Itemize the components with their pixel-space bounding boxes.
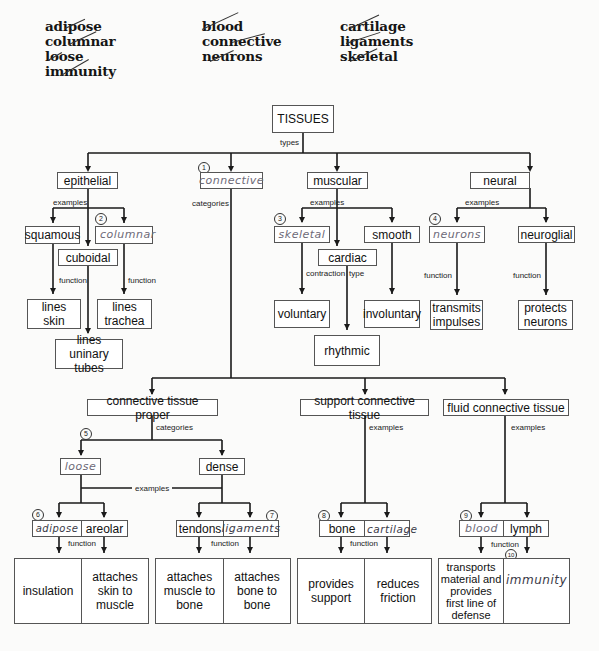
node-text: lines (112, 300, 137, 314)
edge-label-examples: examples (310, 198, 344, 207)
node-text: skin to (98, 584, 133, 598)
node-rhythmic: rhythmic (314, 335, 380, 366)
node-text: muscle (96, 598, 134, 612)
answer-field-adipose[interactable]: adipose (32, 520, 82, 537)
node-text: transmits (432, 301, 481, 315)
edge-label-function: function (59, 276, 87, 285)
answer-field-skeletal[interactable]: skeletal (274, 226, 330, 243)
node-tendons: tendons (176, 520, 224, 537)
node-text: transports (447, 561, 496, 573)
node-text: bone (244, 598, 271, 612)
edge-label-examples: examples (511, 423, 545, 432)
node-muscular: muscular (307, 172, 368, 189)
answer-field-cartilage[interactable]: cartilage (364, 520, 410, 537)
node-text: neurons (524, 315, 567, 329)
node-text: friction (380, 591, 415, 605)
answer-field-loose[interactable]: loose (60, 458, 101, 475)
node-lines-trachea: lines trachea (97, 299, 152, 329)
node-epithelial: epithelial (57, 172, 118, 189)
node-text: protects (524, 301, 567, 315)
edge-label-function: function (513, 271, 541, 280)
edge-label-function: function (68, 539, 96, 548)
node-reduces-friction: reduces friction (364, 558, 432, 624)
edge-label-examples: examples (53, 198, 87, 207)
node-voluntary: voluntary (274, 300, 330, 328)
node-attaches-bone-to-bone: attaches bone to bone (223, 558, 291, 624)
node-provides-support: provides support (297, 558, 365, 624)
edge-label-function: function (491, 540, 519, 549)
node-dense: dense (199, 458, 245, 475)
node-text: provides (308, 577, 353, 591)
node-connective-tissue-proper: connective tissue proper (87, 399, 218, 416)
node-text: skin (43, 314, 64, 328)
edge-label-types: types (280, 138, 299, 147)
node-text: impulses (433, 315, 480, 329)
answer-field-columnar[interactable]: columnar (95, 226, 153, 244)
node-neural: neural (470, 172, 530, 189)
node-text: attaches (167, 570, 212, 584)
edge-label-function: function (211, 539, 239, 548)
node-protects-neurons: protects neurons (518, 300, 573, 330)
node-text: reduces (377, 577, 420, 591)
answer-number-5: 5 (80, 428, 92, 440)
node-text: attaches (234, 570, 279, 584)
node-squamous: squamous (25, 226, 80, 244)
node-text: material and (441, 573, 502, 585)
node-transmits-impulses: transmits impulses (430, 300, 483, 330)
node-lines-uninary-tubes: lines uninary tubes (55, 339, 123, 369)
edge-label-examples: examples (465, 198, 499, 207)
node-cuboidal: cuboidal (58, 249, 118, 266)
node-fluid-connective-tissue: fluid connective tissue (443, 399, 569, 416)
node-lymph: lymph (503, 520, 549, 537)
node-areolar: areolar (81, 520, 128, 537)
edge-label-type: type (349, 269, 364, 278)
answer-field-immunity[interactable]: immunity (503, 558, 570, 624)
answer-number-2: 2 (95, 213, 107, 225)
handwritten-answer: immunity (506, 573, 567, 587)
node-text: lines (42, 300, 67, 314)
node-attaches-skin-to-muscle: attaches skin to muscle (81, 558, 149, 624)
node-text: lines (77, 333, 102, 347)
answer-field-blood[interactable]: blood (459, 520, 504, 537)
node-text: muscle to (164, 584, 215, 598)
node-text: trachea (104, 314, 144, 328)
answer-field-neurons[interactable]: neurons (429, 226, 485, 243)
node-text: uninary tubes (56, 347, 122, 375)
edge-label-examples: examples (134, 484, 170, 493)
node-text: bone (176, 598, 203, 612)
node-smooth: smooth (364, 226, 420, 243)
node-transports-material: transports material and provides first l… (438, 558, 504, 624)
answer-number-4: 4 (429, 213, 441, 225)
edge-label-categories: categories (156, 423, 193, 432)
answer-field-ligaments[interactable]: ligaments (223, 520, 279, 537)
edge-label-examples: examples (369, 423, 403, 432)
answer-number-3: 3 (274, 213, 286, 225)
node-text: provides (450, 585, 492, 597)
node-text: first line of (446, 597, 496, 609)
answer-field-connective[interactable]: connective (200, 172, 263, 189)
node-bone: bone (319, 520, 365, 537)
edge-label-function: function (350, 539, 378, 548)
edge-label-function: function (128, 276, 156, 285)
node-lines-skin: lines skin (27, 299, 81, 329)
edge-label-function: function (424, 271, 452, 280)
node-tissues: TISSUES (272, 105, 334, 133)
node-text: support (311, 591, 351, 605)
node-text: defense (451, 609, 490, 621)
edge-label-contraction: contraction (306, 269, 345, 278)
node-involuntary: involuntary (364, 300, 420, 328)
node-text: bone to (237, 584, 277, 598)
node-text: attaches (92, 570, 137, 584)
edge-label-categories: categories (192, 199, 229, 208)
node-neuroglial: neuroglial (518, 226, 575, 243)
node-attaches-muscle-to-bone: attaches muscle to bone (155, 558, 224, 624)
node-support-connective-tissue: support connective tissue (300, 399, 429, 416)
node-cardiac: cardiac (318, 249, 377, 266)
node-insulation: insulation (14, 558, 82, 624)
